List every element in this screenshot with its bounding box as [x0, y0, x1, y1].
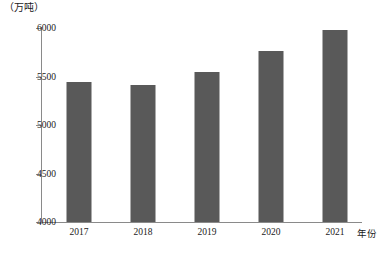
x-axis-title: 年份 — [357, 228, 377, 240]
bar[interactable] — [259, 51, 284, 222]
x-axis-tick-label: 2017 — [47, 226, 111, 238]
y-axis-unit-label: （万吨） — [4, 2, 44, 14]
bar-slot — [47, 28, 111, 222]
bar-slot — [111, 28, 175, 222]
bar[interactable] — [323, 30, 348, 222]
x-axis-tick-label: 2020 — [239, 226, 303, 238]
bar[interactable] — [131, 85, 156, 222]
x-axis-tick-label: 2019 — [175, 226, 239, 238]
bar-slot — [303, 28, 367, 222]
bar-slot — [239, 28, 303, 222]
x-axis-tick-label: 2018 — [111, 226, 175, 238]
x-axis-line — [41, 222, 362, 223]
bar-slot — [175, 28, 239, 222]
bar[interactable] — [195, 72, 220, 222]
bar-chart: （万吨） 40004500500055006000 20172018201920… — [0, 0, 381, 258]
bar-series — [41, 28, 362, 222]
bar[interactable] — [67, 82, 92, 222]
